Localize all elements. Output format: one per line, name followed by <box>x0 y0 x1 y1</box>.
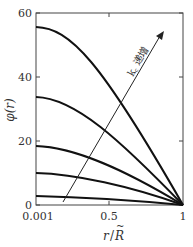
curve-4 <box>36 97 183 205</box>
curves <box>36 27 183 205</box>
y-ticks <box>36 13 183 205</box>
y-tick-label: 60 <box>18 7 32 20</box>
arrow-head-icon <box>156 31 164 40</box>
chart: 60 40 20 0 0.001 0.5 1 φ(r) r / R ~ k꜀ 递… <box>0 0 193 247</box>
x-tick-label: 0.001 <box>22 210 54 223</box>
x-axis-label: r / R ~ <box>103 220 124 243</box>
x-tick-label: 1 <box>180 210 187 223</box>
y-tick-label: 40 <box>18 71 32 84</box>
plot-frame <box>36 13 183 205</box>
svg-text:~: ~ <box>116 220 124 231</box>
curve-5 <box>36 27 183 205</box>
svg-text:R: R <box>114 229 124 243</box>
y-axis-label: φ(r) <box>3 98 17 122</box>
increase-arrow <box>63 36 160 202</box>
svg-text:r: r <box>103 229 110 243</box>
y-tick-label: 20 <box>18 135 32 148</box>
arrow-annotation: k꜀ 递增 <box>124 44 151 78</box>
curve-2 <box>36 173 183 205</box>
